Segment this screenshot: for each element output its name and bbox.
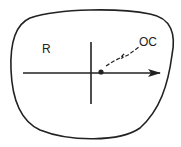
optical-center-label: OC [139,35,157,49]
optical-center-dot [98,69,103,74]
region-label: R [42,42,51,56]
lens-outline [11,10,174,139]
lens-diagram: R OC [0,0,181,147]
oc-leader-line [106,47,139,66]
